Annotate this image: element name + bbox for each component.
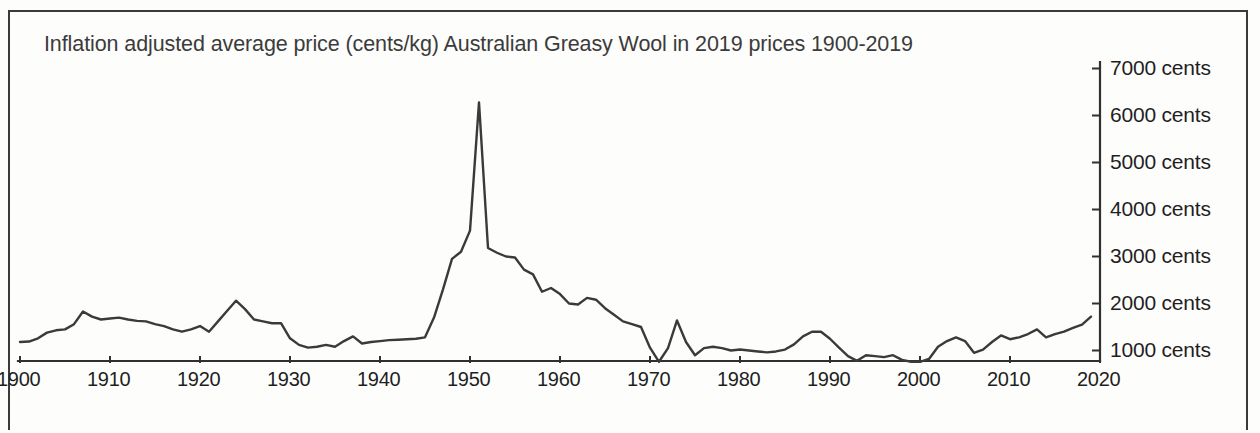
x-axis-tick-label: 1930: [267, 368, 310, 391]
x-axis-tick-label: 1920: [177, 368, 220, 391]
y-axis-tick-label: 2000 cents: [1110, 291, 1211, 315]
chart-page: Inflation adjusted average price (cents/…: [0, 0, 1260, 433]
y-axis-tick-label: 6000 cents: [1110, 103, 1211, 127]
x-axis-tick-label: 1910: [87, 368, 130, 391]
x-axis-tick-label: 1900: [0, 368, 40, 391]
axis-lines: [18, 62, 1100, 361]
y-axis-tick-label: 4000 cents: [1110, 197, 1211, 221]
x-axis-tick-label: 1940: [357, 368, 400, 391]
x-axis-tick-label: 1990: [807, 368, 850, 391]
x-axis-tick-label: 1970: [627, 368, 670, 391]
y-axis-tick-label: 1000 cents: [1110, 338, 1211, 362]
x-axis-tick-label: 1980: [717, 368, 760, 391]
x-axis-tick-label: 1960: [537, 368, 580, 391]
price-series-line: [20, 102, 1091, 361]
y-axis-tick-label: 5000 cents: [1110, 150, 1211, 174]
y-axis-tick-label: 7000 cents: [1110, 56, 1211, 80]
x-axis-tick-label: 2020: [1077, 368, 1120, 391]
x-axis-tick-label: 1950: [447, 368, 490, 391]
x-axis-tick-label: 2000: [897, 368, 940, 391]
x-axis-tick-label: 2010: [987, 368, 1030, 391]
y-axis-tick-label: 3000 cents: [1110, 244, 1211, 268]
